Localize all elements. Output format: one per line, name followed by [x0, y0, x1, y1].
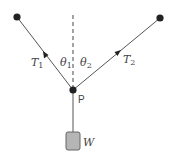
- label-t2: T2: [123, 53, 135, 67]
- force-diagram: T1 T2 θ1 θ2 P W: [0, 0, 178, 158]
- label-weight: W: [83, 136, 96, 149]
- anchor-dot-right: [156, 14, 163, 21]
- weight-box: [66, 132, 80, 150]
- label-theta1: θ1: [60, 56, 72, 70]
- label-point-p: P: [78, 94, 85, 105]
- anchor-dot-left: [13, 13, 20, 20]
- junction-dot-p: [69, 86, 76, 93]
- label-theta2: θ2: [80, 56, 92, 70]
- label-t1: T1: [31, 56, 43, 70]
